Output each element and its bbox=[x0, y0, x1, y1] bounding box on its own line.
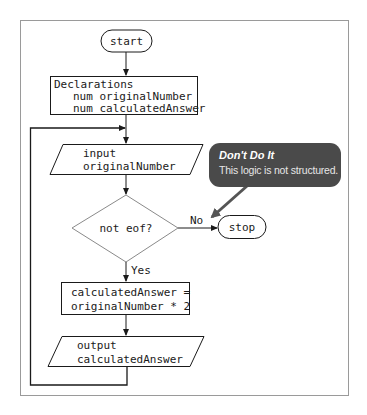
no-label: No bbox=[190, 214, 203, 227]
output-parallelogram: output calculatedAnswer bbox=[48, 337, 204, 367]
output-variable: calculatedAnswer bbox=[77, 353, 183, 366]
decision-label: not eof? bbox=[100, 222, 153, 235]
callout-message: This logic is not structured. bbox=[219, 163, 333, 178]
flowchart: start Declarations num originalNumber nu… bbox=[0, 0, 367, 415]
calculation-box: calculatedAnswer = originalNumber * 2 bbox=[62, 283, 191, 315]
decision-diamond: not eof? bbox=[72, 195, 178, 262]
declarations-box: Declarations num originalNumber num calc… bbox=[51, 77, 206, 116]
input-keyword: input bbox=[83, 147, 116, 160]
output-keyword: output bbox=[77, 339, 117, 352]
calculation-line: calculatedAnswer = bbox=[71, 286, 191, 299]
start-label: start bbox=[110, 35, 143, 48]
callout-pointer-arrow bbox=[212, 186, 247, 217]
dont-do-it-callout: Don't Do It This logic is not structured… bbox=[209, 143, 341, 187]
input-variable: originalNumber bbox=[83, 160, 176, 173]
yes-label: Yes bbox=[131, 264, 151, 277]
stop-label: stop bbox=[229, 221, 256, 234]
input-parallelogram: input originalNumber bbox=[50, 145, 203, 175]
calculation-line: originalNumber * 2 bbox=[71, 300, 190, 313]
start-terminator: start bbox=[101, 30, 152, 52]
stop-terminator: stop bbox=[218, 216, 266, 239]
callout-title: Don't Do It bbox=[219, 148, 333, 163]
declaration-line: num calculatedAnswer bbox=[73, 102, 206, 115]
